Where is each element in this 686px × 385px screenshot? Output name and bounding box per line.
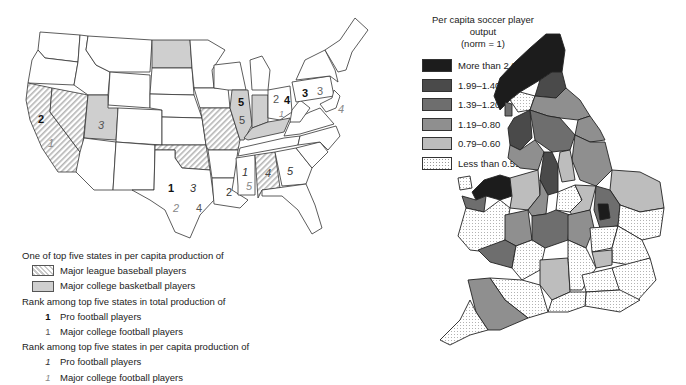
- label-oh-percap-college: 1: [279, 109, 284, 119]
- label-il-total-college: 5: [239, 114, 245, 126]
- legend-item-percap-college: 1 Major college football players: [22, 370, 249, 385]
- region-hunts: [598, 204, 610, 220]
- label-ca-total-pro: 2: [38, 113, 44, 125]
- legend-heading-total: Rank among top five states in total prod…: [22, 294, 249, 309]
- state-mi: [250, 56, 270, 90]
- italic-numeral-glyph: 1: [42, 354, 54, 369]
- region-west-mids: [532, 210, 570, 248]
- label-pa-total-college: 3: [317, 85, 323, 97]
- state-wi: [214, 62, 246, 90]
- region-lincolnshire: [572, 135, 612, 186]
- legend-label-total-college: Major college football players: [60, 324, 183, 339]
- legend-heading-percap: One of top five states in per capita pro…: [22, 248, 249, 263]
- state-az: [76, 138, 116, 190]
- bold-numeral-glyph: 1: [42, 309, 54, 324]
- england-soccer-map: [430, 0, 686, 374]
- legend-item-percap-pro: 1 Pro football players: [22, 354, 249, 369]
- legend-label-baseball: Major league baseball players: [60, 263, 186, 278]
- us-sports-map: 2 1 3 1 3 2 4 5 5 2 1 5 4 5 2 4 1 3 3 4: [0, 0, 400, 245]
- label-tx-total-college: 4: [196, 202, 202, 214]
- state-co: [116, 108, 162, 145]
- hatch-swatch: [32, 265, 54, 276]
- region-anglesey: [458, 176, 472, 190]
- legend-label-basketball: Major college basketball players: [60, 278, 195, 293]
- light-numeral-glyph: 1: [42, 324, 54, 339]
- legend-heading-percap-rank: Rank among top five states in per capita…: [22, 339, 249, 354]
- label-oh-total-college: 2: [273, 93, 279, 105]
- legend-item-baseball: Major league baseball players: [22, 263, 249, 278]
- label-ga-percap-pro: 5: [287, 165, 294, 177]
- gray-swatch: [32, 281, 54, 292]
- label-il-total-pro: 5: [238, 96, 244, 108]
- us-map-legend: One of top five states in per capita pro…: [22, 248, 249, 385]
- label-tx-percap-college: 2: [172, 202, 179, 214]
- italic-light-numeral-glyph: 1: [42, 370, 54, 385]
- label-tx-percap-pro: 3: [190, 182, 197, 194]
- state-wy: [108, 72, 150, 108]
- region-barrow: [505, 102, 512, 116]
- state-fl: [262, 184, 322, 234]
- state-ar: [208, 150, 238, 178]
- label-ca-percap-college: 1: [48, 137, 54, 149]
- state-ia: [194, 88, 230, 108]
- region-wales-north: [472, 175, 512, 200]
- region-hereford: [505, 210, 532, 246]
- label-tx-total-pro: 1: [168, 182, 174, 194]
- label-la-total-college: 2: [226, 186, 232, 198]
- legend-label-total-pro: Pro football players: [60, 309, 141, 324]
- label-ut-percap-pro: 3: [98, 119, 105, 131]
- label-ms-percap-college: 5: [246, 180, 253, 192]
- label-ms-percap-pro: 1: [242, 166, 248, 178]
- state-sd: [150, 68, 194, 95]
- legend-label-percap-pro: Pro football players: [60, 354, 141, 369]
- label-pa-total-pro: 3: [302, 87, 308, 99]
- label-al-percap-pro: 4: [265, 167, 271, 179]
- state-nd: [152, 40, 192, 68]
- legend-item-total-college: 1 Major college football players: [22, 324, 249, 339]
- label-oh-total-pro: 4: [284, 94, 291, 106]
- label-md-percap-college: 4: [338, 103, 344, 115]
- state-ks: [162, 117, 206, 145]
- legend-item-basketball: Major college basketball players: [22, 278, 249, 293]
- legend-item-total-pro: 1 Pro football players: [22, 309, 249, 324]
- state-nm: [113, 142, 155, 190]
- legend-label-percap-college: Major college football players: [60, 370, 183, 385]
